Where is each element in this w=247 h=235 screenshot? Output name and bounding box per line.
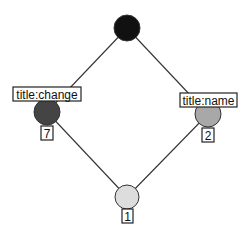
count-label-bottom: 1 — [122, 209, 133, 224]
lattice-diagram: title:change title:name 7 2 1 — [0, 0, 247, 235]
attribute-label-left: title:change — [13, 87, 81, 102]
attribute-label-left-text: title:change — [16, 88, 78, 102]
edge-left-bottom — [47, 112, 127, 197]
count-label-right: 2 — [202, 128, 214, 143]
count-label-left: 7 — [41, 126, 53, 141]
node-top[interactable] — [114, 15, 140, 41]
count-label-right-text: 2 — [205, 129, 212, 143]
count-label-bottom-text: 1 — [124, 210, 131, 224]
count-label-left-text: 7 — [44, 127, 51, 141]
edge-right-bottom — [127, 114, 208, 197]
node-bottom[interactable] — [115, 185, 139, 209]
attribute-label-right: title:name — [180, 93, 237, 108]
node-left[interactable] — [34, 99, 60, 125]
attribute-label-right-text: title:name — [182, 94, 234, 108]
